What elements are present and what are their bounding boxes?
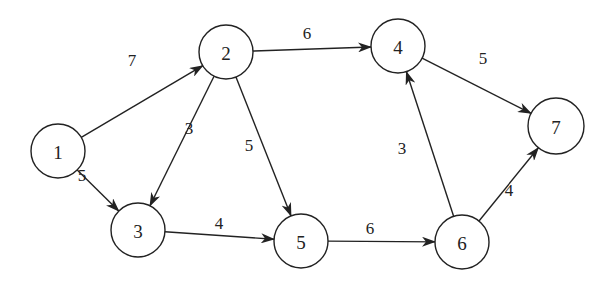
node-5: 5: [274, 214, 328, 268]
graph-diagram: 1234567 7535646354: [0, 0, 611, 282]
edge-weight-6-7: 4: [505, 181, 514, 200]
graph-canvas: 1234567 7535646354: [0, 0, 611, 282]
edge-5-to-6: [328, 241, 435, 242]
edge-4-to-7: [422, 58, 531, 113]
edge-weight-2-5: 5: [245, 136, 254, 155]
edge-weight-6-4: 3: [398, 139, 407, 158]
edge-6-to-4: [406, 72, 453, 217]
edge-2-to-3: [150, 76, 214, 206]
node-7: 7: [528, 98, 584, 154]
node-label: 7: [551, 117, 561, 138]
node-4: 4: [371, 19, 425, 73]
edge-weight-2-3: 3: [185, 119, 194, 138]
node-label: 2: [221, 43, 231, 64]
node-label: 6: [457, 233, 467, 254]
node-label: 5: [296, 232, 306, 253]
node-6: 6: [435, 215, 489, 269]
nodes-layer: 1234567: [31, 19, 584, 269]
edge-weight-3-5: 4: [215, 214, 224, 233]
node-2: 2: [199, 25, 253, 79]
node-label: 1: [53, 142, 63, 163]
edge-2-to-4: [253, 47, 371, 51]
edge-weight-4-7: 5: [479, 49, 488, 68]
edge-weight-2-4: 6: [303, 24, 312, 43]
node-3: 3: [111, 203, 165, 257]
node-label: 3: [133, 221, 143, 242]
node-label: 4: [393, 37, 403, 58]
edge-weight-5-6: 6: [366, 219, 375, 238]
edge-3-to-5: [165, 232, 274, 239]
edge-weight-1-2: 7: [128, 51, 137, 70]
edge-weight-1-3: 5: [78, 166, 87, 185]
